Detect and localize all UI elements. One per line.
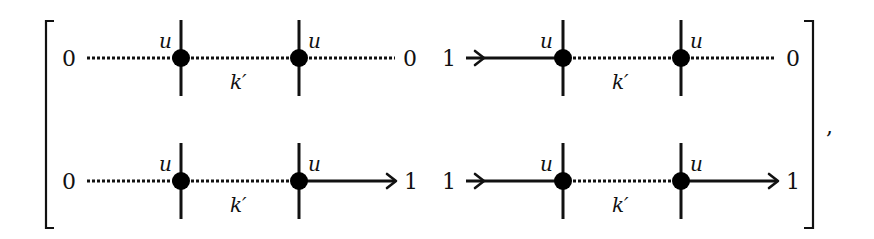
cell-row0-col0: 0 0 u u k′	[62, 20, 417, 96]
vertex-2-label: u	[690, 152, 703, 176]
cell-row0-col1: 1 0 u u k′	[442, 20, 800, 96]
vertex-1-label: u	[159, 29, 172, 53]
left-boundary-label: 0	[62, 169, 76, 194]
middle-edge-label: k′	[612, 70, 629, 94]
left-bracket	[46, 21, 54, 228]
right-boundary-label: 1	[786, 169, 800, 194]
vertex-1-dot	[172, 49, 190, 67]
cell-row1-col0: 0 1 u u k′	[62, 143, 418, 219]
vertex-2-label: u	[308, 152, 321, 176]
trailing-comma: ,	[826, 114, 833, 139]
right-boundary-label: 0	[403, 46, 417, 71]
cell-row1-col1: 1 1 u u k′	[442, 143, 800, 219]
vertex-2-dot	[290, 172, 308, 190]
vertex-1-label: u	[159, 152, 172, 176]
middle-edge-label: k′	[612, 193, 629, 217]
left-boundary-label: 0	[62, 46, 76, 71]
vertex-2-label: u	[308, 29, 321, 53]
vertex-1-dot	[172, 172, 190, 190]
left-boundary-label: 1	[442, 46, 456, 71]
vertex-1-label: u	[540, 29, 553, 53]
vertex-2-dot	[672, 49, 690, 67]
right-bracket	[804, 21, 813, 228]
vertex-2-dot	[672, 172, 690, 190]
middle-edge-label: k′	[230, 193, 247, 217]
right-boundary-label: 0	[786, 46, 800, 71]
vertex-1-dot	[554, 172, 572, 190]
vertex-1-dot	[554, 49, 572, 67]
left-boundary-label: 1	[442, 169, 456, 194]
vertex-1-label: u	[540, 152, 553, 176]
vertex-2-label: u	[690, 29, 703, 53]
middle-edge-label: k′	[230, 70, 247, 94]
right-boundary-label: 1	[404, 169, 418, 194]
vertex-2-dot	[290, 49, 308, 67]
vertex-matrix-diagram: , 0 0 u u k′ 1 0 u u k′ 0 1	[0, 0, 874, 239]
